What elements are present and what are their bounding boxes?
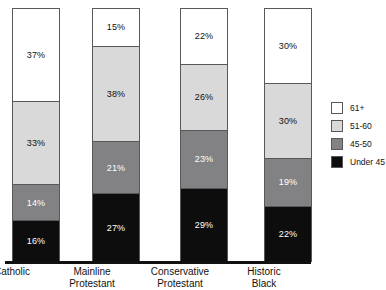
segment-value-label: 30% (279, 116, 297, 126)
legend-label: 51-60 (350, 121, 372, 131)
bar-segment-51-60[interactable]: 30% (265, 83, 311, 158)
chart-legend: 61+51-6045-50Under 45 (331, 99, 386, 171)
bar-segment-45-50[interactable]: 14% (13, 184, 59, 220)
bar-segment-61-[interactable]: 22% (181, 9, 227, 64)
segment-value-label: 16% (27, 236, 45, 246)
bar-catholic[interactable]: 37%33%14%16% (12, 8, 60, 262)
segment-value-label: 37% (27, 50, 45, 60)
segment-value-label: 15% (107, 22, 125, 32)
legend-swatch-icon (331, 120, 343, 132)
segment-value-label: 19% (279, 177, 297, 187)
bar-segment-61-[interactable]: 30% (265, 9, 311, 83)
bar-segment-61-[interactable]: 37% (13, 9, 59, 101)
plot-area: 37%33%14%16%Catholic15%38%21%27%Mainline… (0, 0, 320, 266)
bar-segment-under-45[interactable]: 29% (181, 188, 227, 261)
legend-item-51-60[interactable]: 51-60 (331, 117, 386, 135)
segment-value-label: 14% (27, 198, 45, 208)
bar-conservative-protestant[interactable]: 22%26%23%29% (180, 8, 228, 262)
bar-segment-51-60[interactable]: 26% (181, 64, 227, 130)
legend-swatch-icon (331, 102, 343, 114)
segment-value-label: 27% (107, 223, 125, 233)
bar-segment-45-50[interactable]: 21% (93, 141, 139, 194)
segment-value-label: 33% (27, 138, 45, 148)
bar-segment-under-45[interactable]: 22% (265, 206, 311, 261)
segment-value-label: 22% (195, 31, 213, 41)
segment-value-label: 26% (195, 92, 213, 102)
x-axis-line (5, 261, 311, 264)
category-label-line: Black (209, 278, 319, 290)
bar-segment-45-50[interactable]: 19% (265, 158, 311, 206)
category-label-historic-black: HistoricBlack (209, 266, 319, 290)
segment-value-label: 21% (107, 163, 125, 173)
bar-segment-under-45[interactable]: 27% (93, 193, 139, 261)
legend-swatch-icon (331, 138, 343, 150)
legend-label: Under 45 (350, 157, 385, 167)
segment-value-label: 23% (195, 154, 213, 164)
bar-segment-61-[interactable]: 15% (93, 9, 139, 46)
stacked-bar-chart: 37%33%14%16%Catholic15%38%21%27%Mainline… (0, 0, 386, 290)
bar-segment-under-45[interactable]: 16% (13, 220, 59, 261)
legend-item-under-45[interactable]: Under 45 (331, 153, 386, 171)
legend-swatch-icon (331, 156, 343, 168)
legend-label: 45-50 (350, 139, 372, 149)
bar-segment-51-60[interactable]: 38% (93, 46, 139, 141)
legend-item-45-50[interactable]: 45-50 (331, 135, 386, 153)
segment-value-label: 29% (195, 220, 213, 230)
bar-segment-51-60[interactable]: 33% (13, 101, 59, 184)
legend-label: 61+ (350, 103, 364, 113)
bar-historic-black[interactable]: 30%30%19%22% (264, 8, 312, 262)
segment-value-label: 38% (107, 89, 125, 99)
segment-value-label: 22% (279, 229, 297, 239)
legend-item-61-[interactable]: 61+ (331, 99, 386, 117)
segment-value-label: 30% (279, 41, 297, 51)
bar-segment-45-50[interactable]: 23% (181, 130, 227, 188)
bar-mainline-protestant[interactable]: 15%38%21%27% (92, 8, 140, 262)
category-label-line: Historic (209, 266, 319, 278)
